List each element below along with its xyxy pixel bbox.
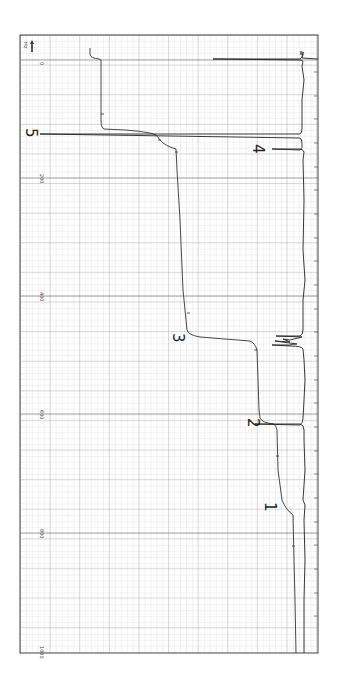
- tick-label-800: 800: [39, 529, 45, 539]
- peak-label-3: 3: [169, 333, 187, 343]
- peak-label-4: 4: [249, 144, 267, 154]
- tick-label-600: 600: [39, 410, 45, 420]
- tick-label-0: 0: [39, 62, 45, 65]
- peak-label-5: 5: [22, 128, 40, 138]
- peak-label-2: 2: [244, 418, 262, 428]
- chart-grid: [20, 35, 318, 653]
- peak-label-1: 1: [261, 502, 279, 512]
- axis-unit-label: Hz: [23, 42, 29, 49]
- nmr-spectrum-chart: 0 200 400 600 800 1000 Hz 5 4 3 2 1: [0, 0, 341, 690]
- tick-label-1000: 1000: [39, 646, 45, 659]
- tick-label-200: 200: [39, 174, 45, 184]
- tick-label-400: 400: [39, 292, 45, 302]
